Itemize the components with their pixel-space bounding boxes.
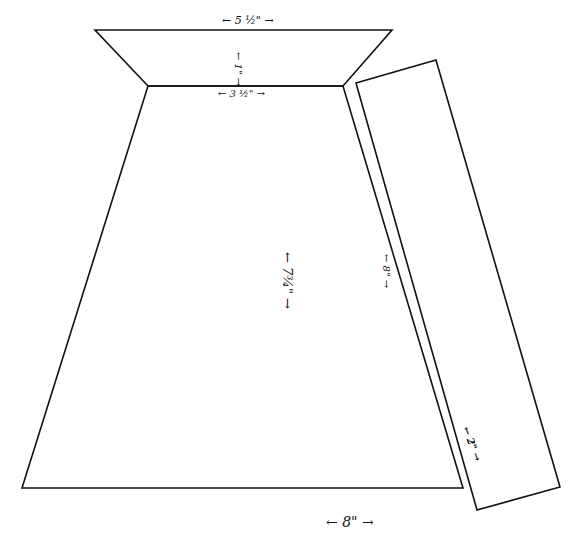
- middle-width-label: ← 3 ½" →: [218, 88, 265, 99]
- main-height-label: ← 7¾" →: [280, 252, 295, 309]
- main-trapezoid: [22, 86, 463, 488]
- top-width-label: ← 5 ½" →: [222, 14, 274, 27]
- side-length-label: ← 8" →: [381, 254, 392, 288]
- bottom-width-label: ← 8" →: [326, 514, 374, 530]
- top-height-label: ← 1" →: [233, 52, 244, 86]
